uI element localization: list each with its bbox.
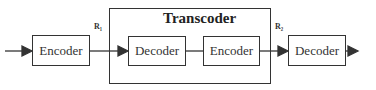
source-encoder-block: Encoder — [32, 35, 90, 66]
transcoder-title: Transcoder — [163, 10, 236, 27]
rate-label-r2: R₂ — [275, 22, 283, 31]
sink-decoder-block: Decoder — [288, 35, 346, 66]
transcoder-decoder-block: Decoder — [128, 36, 186, 66]
transcoder-encoder-block: Encoder — [203, 36, 260, 66]
rate-label-r1: R₁ — [94, 22, 102, 31]
